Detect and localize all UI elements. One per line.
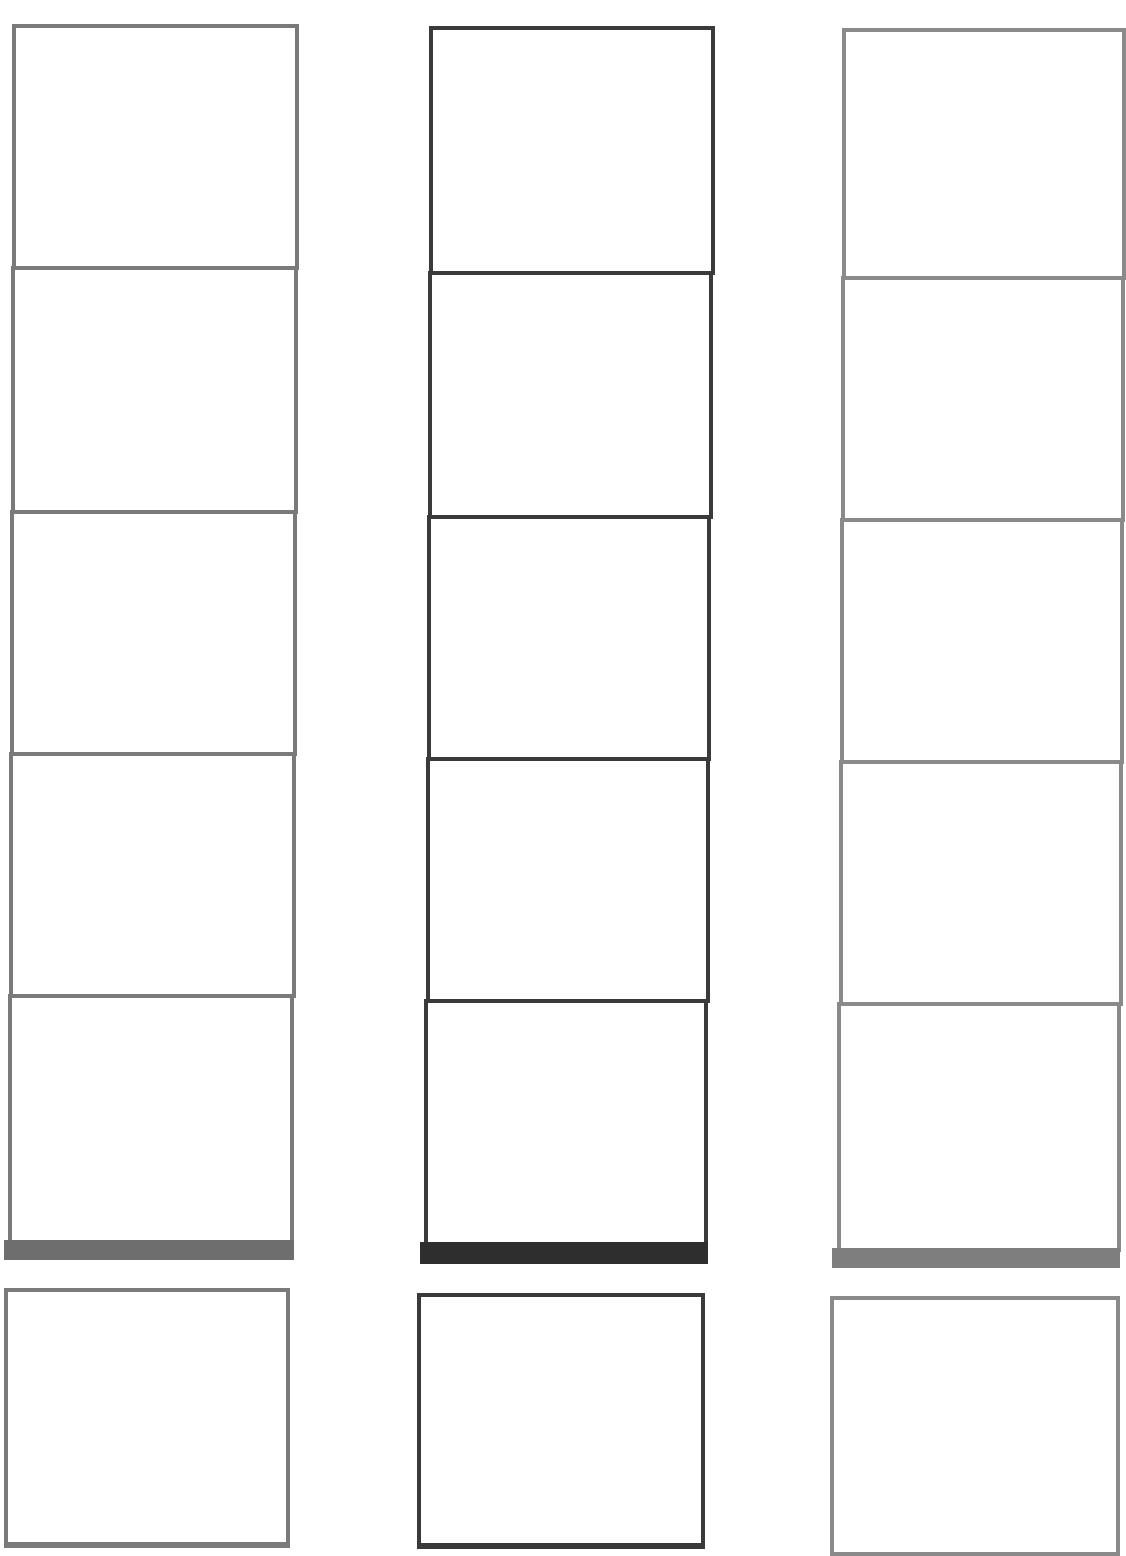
strip-cell	[9, 752, 296, 998]
strip-cell	[841, 276, 1125, 522]
strip-cell	[837, 1002, 1121, 1252]
strip-bottom-bar	[832, 1248, 1120, 1268]
strip-cell	[11, 266, 298, 514]
page-title	[0, 0, 1126, 14]
left-extra-box	[4, 1288, 290, 1548]
right-extra-box	[830, 1296, 1120, 1556]
strip-cell	[428, 271, 713, 519]
middle-extra-box	[417, 1293, 705, 1549]
strip-bottom-bar	[420, 1242, 708, 1264]
strip-cell	[842, 28, 1126, 280]
strip-cell	[429, 26, 715, 275]
strip-cell	[10, 510, 297, 756]
strip-cell	[840, 518, 1124, 764]
strip-cell	[426, 757, 710, 1003]
strip-bottom-bar	[4, 1240, 294, 1260]
strip-cell	[8, 994, 294, 1244]
strip-cell	[839, 760, 1123, 1006]
middle-strip	[418, 26, 718, 1266]
strip-cell	[427, 515, 711, 761]
right-strip	[832, 28, 1126, 1270]
strip-cell	[424, 999, 708, 1247]
strip-cell	[12, 24, 299, 270]
left-strip	[4, 24, 299, 1261]
